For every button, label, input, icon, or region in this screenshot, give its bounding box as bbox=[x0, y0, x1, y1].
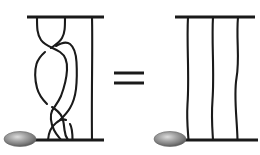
left-braid-group bbox=[27, 17, 104, 140]
braid-diagram-canvas bbox=[0, 0, 260, 155]
right-braid-group bbox=[175, 17, 258, 140]
equals-sign bbox=[114, 73, 144, 83]
right-strand-3 bbox=[235, 17, 238, 140]
right-strand-2 bbox=[212, 17, 213, 140]
left-bottom-arch-leg bbox=[70, 124, 73, 140]
left-bead-icon bbox=[4, 132, 36, 147]
left-strand-2-middle bbox=[35, 52, 47, 104]
right-bead-icon bbox=[154, 132, 186, 147]
right-strand-1 bbox=[187, 17, 188, 140]
braid-equivalence-figure: Braid relation: a three-strand braid wit… bbox=[0, 0, 260, 155]
